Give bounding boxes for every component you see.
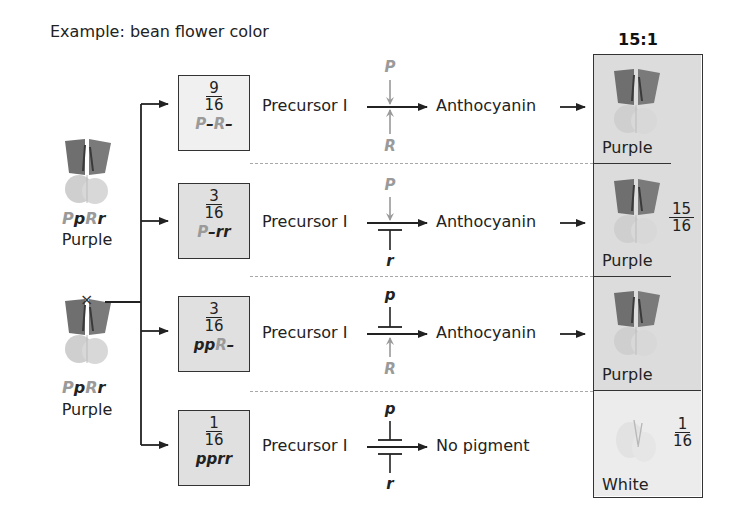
genotype-box-4: 116 pprr [178, 410, 250, 486]
product-label-2: Anthocyanin [436, 212, 536, 231]
genotype-box-1: 916 P–R– [178, 75, 250, 151]
fraction: 116 [204, 415, 223, 448]
purple-flower-icon [614, 69, 660, 134]
product-label-1: Anthocyanin [436, 96, 536, 115]
row-divider [250, 276, 593, 277]
fraction: 316 [204, 301, 223, 334]
gene-R-label: R [380, 360, 400, 378]
precursor-label-1: Precursor I [262, 96, 347, 115]
result-phenotype-2: Purple [602, 251, 653, 270]
product-label-4: No pigment [436, 436, 529, 455]
fraction: 916 [204, 80, 223, 113]
genotype-box-2: 316 P–rr [178, 183, 250, 259]
gene-r-label: r [380, 475, 400, 493]
result-phenotype-1: Purple [602, 138, 653, 157]
parent-2-phenotype: Purple [42, 400, 132, 419]
purple-flower-icon [614, 179, 660, 244]
genotype-box-3: 316 ppR– [178, 296, 250, 372]
gene-R-label: R [380, 137, 400, 155]
product-label-3: Anthocyanin [436, 323, 536, 342]
white-flower-icon [616, 420, 656, 462]
gene-P-label: P [380, 58, 400, 76]
parent-1-genotype: PpRr [62, 209, 105, 228]
parent-1-flower-icon [65, 139, 111, 204]
precursor-label-2: Precursor I [262, 212, 347, 231]
result-phenotype-3: Purple [602, 365, 653, 384]
purple-flower-icon [614, 291, 660, 356]
gene-P-label: P [380, 176, 400, 194]
parent-1-phenotype: Purple [42, 230, 132, 249]
gene-p-label: p [380, 286, 400, 304]
precursor-label-4: Precursor I [262, 436, 347, 455]
precursor-label-3: Precursor I [262, 323, 347, 342]
fraction: 316 [204, 188, 223, 221]
gene-r-label: r [380, 252, 400, 270]
purple-fraction: 1516 [669, 201, 694, 234]
result-phenotype-4: White [602, 475, 649, 494]
white-fraction: 116 [673, 416, 692, 449]
gene-p-label: p [380, 400, 400, 418]
row-divider [250, 391, 593, 392]
cross-symbol: × [80, 290, 93, 309]
parent-2-genotype: PpRr [62, 378, 105, 397]
row-divider [250, 163, 593, 164]
